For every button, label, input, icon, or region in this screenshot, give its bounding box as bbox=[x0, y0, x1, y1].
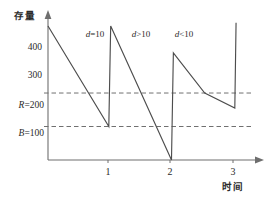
x-axis bbox=[48, 157, 264, 164]
annotation-3-value: 10 bbox=[184, 29, 193, 39]
safety-stock-label: B=100 bbox=[0, 129, 44, 139]
y-axis-label: 存量 bbox=[14, 11, 35, 21]
x-tick-3: 3 bbox=[221, 167, 245, 177]
y-axis-arrow bbox=[45, 10, 52, 19]
x-tick-2: 2 bbox=[158, 167, 182, 177]
threshold-lines bbox=[44, 93, 252, 126]
inventory-sawtooth-chart: 存量 时间 400 300 R=200 B=100 1 2 3 d=10 d>1… bbox=[0, 0, 274, 203]
reorder-point-value: 200 bbox=[30, 100, 44, 110]
annotation-demand-less: d<10 bbox=[162, 30, 206, 39]
y-tick-400: 400 bbox=[14, 43, 42, 53]
y-axis bbox=[45, 10, 52, 160]
annotation-2-value: 10 bbox=[141, 29, 150, 39]
annotation-demand-equal: d=10 bbox=[73, 30, 117, 39]
y-tick-300: 300 bbox=[14, 71, 42, 81]
annotation-demand-greater: d>10 bbox=[119, 30, 163, 39]
x-tick-1: 1 bbox=[96, 167, 120, 177]
reorder-point-label: R=200 bbox=[0, 101, 44, 111]
safety-stock-value: 100 bbox=[30, 128, 44, 138]
annotation-1-value: 10 bbox=[95, 29, 104, 39]
x-axis-arrow bbox=[255, 157, 264, 164]
x-axis-label: 时间 bbox=[222, 182, 243, 192]
inventory-level-series bbox=[48, 23, 236, 160]
